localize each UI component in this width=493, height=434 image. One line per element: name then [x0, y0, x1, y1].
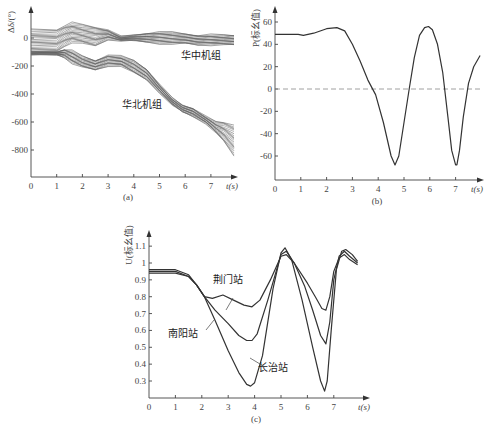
x-tick-label: 3 [226, 402, 231, 412]
y-tick-label: 0.6 [135, 325, 147, 335]
x-tick-label: 7 [332, 402, 337, 412]
y-tick-label: -600 [12, 117, 29, 127]
y-tick-label: 0.7 [135, 309, 147, 319]
series-annotation: 荆门站 [213, 273, 243, 285]
x-tick-label: 4 [376, 184, 381, 194]
x-tick-label: 4 [252, 402, 257, 412]
x-axis-label: t(s) [226, 181, 238, 191]
x-tick-label: 6 [428, 184, 433, 194]
series-line-0 [275, 27, 480, 165]
y-axis-arrow-icon [273, 6, 278, 13]
x-tick-label: 6 [183, 181, 188, 191]
y-tick-label: -200 [12, 61, 29, 71]
x-tick-label: 1 [173, 402, 178, 412]
series-annotation: 长治站 [258, 361, 288, 373]
x-tick-label: 5 [279, 402, 284, 412]
series-line-1 [31, 52, 234, 138]
y-tick-label: -800 [12, 145, 29, 155]
series-annotation: 华北机组 [122, 98, 162, 110]
x-tick-label: 2 [324, 184, 329, 194]
y-tick-label: 0 [268, 84, 273, 94]
y-tick-label: 0.8 [135, 292, 147, 302]
x-axis-arrow-icon [363, 396, 370, 401]
series-line-1 [31, 50, 234, 125]
chart-b-power: 012345676040200-20-40-60t(s)P(标幺值)(b) [250, 6, 484, 206]
x-tick-label: 0 [147, 402, 152, 412]
x-tick-label: 3 [106, 181, 111, 191]
x-axis-label: t(s) [358, 402, 370, 412]
y-axis-label: Δδ/(°) [6, 11, 16, 33]
x-tick-label: 2 [80, 181, 85, 191]
y-tick-label: 1.1 [135, 241, 146, 251]
series-line-1 [31, 50, 234, 128]
series-annotation: 南阳站 [168, 327, 198, 339]
y-tick-label: -60 [260, 151, 272, 161]
x-tick-label: 0 [273, 184, 278, 194]
y-tick-label: -40 [260, 129, 272, 139]
y-tick-label: 0.5 [135, 342, 147, 352]
series-line-0 [149, 255, 358, 311]
y-axis-arrow-icon [147, 230, 152, 237]
y-tick-label: -20 [260, 106, 272, 116]
x-tick-label: 7 [453, 184, 458, 194]
chart-caption: (a) [123, 192, 133, 202]
annotation-leader-line [206, 320, 214, 330]
y-tick-label: 40 [263, 39, 273, 49]
y-tick-label: 1 [142, 258, 147, 268]
y-tick-label: 0 [24, 33, 29, 43]
y-axis-label: P(标幺值) [250, 9, 261, 47]
y-axis-arrow-icon [29, 6, 34, 13]
x-axis-arrow-icon [477, 178, 484, 183]
y-tick-label: 0.4 [135, 359, 147, 369]
x-axis-label: t(s) [471, 184, 483, 194]
x-axis-arrow-icon [231, 175, 238, 180]
series-line-1 [31, 52, 234, 138]
y-tick-label: 0.3 [135, 376, 147, 386]
y-tick-label: 60 [263, 17, 273, 27]
x-tick-label: 1 [299, 184, 304, 194]
chart-c-voltage: 012345671.110.90.80.70.60.50.40.3t(s)U(标… [123, 225, 370, 424]
y-tick-label: -400 [12, 89, 29, 99]
series-line-2 [149, 248, 358, 391]
x-tick-label: 1 [54, 181, 59, 191]
y-tick-label: 0.9 [135, 275, 147, 285]
x-tick-label: 3 [350, 184, 355, 194]
x-tick-label: 5 [402, 184, 407, 194]
chart-caption: (c) [251, 414, 261, 424]
series-annotation: 华中机组 [181, 49, 221, 61]
figure-canvas: 012345670-200-400-600-800t(s)Δδ/(°)(a)华中… [0, 0, 493, 434]
x-tick-label: 6 [305, 402, 310, 412]
y-axis-label: U(标幺值) [123, 225, 134, 265]
x-tick-label: 5 [157, 181, 162, 191]
x-tick-label: 7 [209, 181, 214, 191]
chart-a-rotor-angle: 012345670-200-400-600-800t(s)Δδ/(°)(a)华中… [6, 6, 238, 202]
x-tick-label: 2 [200, 402, 205, 412]
x-tick-label: 4 [132, 181, 137, 191]
annotation-leader-line [226, 298, 233, 310]
x-tick-label: 0 [29, 181, 34, 191]
y-tick-label: 20 [263, 62, 273, 72]
chart-caption: (b) [372, 196, 383, 206]
